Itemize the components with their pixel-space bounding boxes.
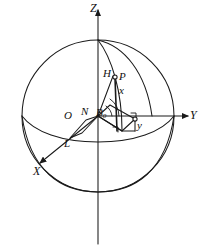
point-p-marker [113,75,117,79]
figure-canvas [0,0,203,249]
point-label-l: L [64,138,70,149]
angle-label-b0-base: B [96,106,103,118]
angle-label-b0: B0 [96,107,106,118]
angle-label-b0-subscript: 0 [103,112,107,120]
point-label-h: H [103,68,111,79]
axis-label-y: Y [190,109,197,121]
point-label-p: P [119,71,126,82]
segment-label-x: x [119,85,124,96]
point-label-n: N [81,106,88,117]
axis-label-z: Z [90,2,97,14]
axis-label-x: X [33,165,40,177]
point-label-o: O [64,110,72,121]
geometry-figure: Z Y X O N H P L x y B0 [0,0,203,249]
segment-label-y: y [137,120,142,131]
